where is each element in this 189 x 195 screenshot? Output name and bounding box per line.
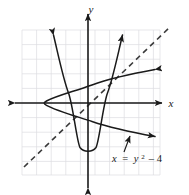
equation-exponent: 2 xyxy=(141,153,145,161)
y-axis-label: y xyxy=(88,3,94,15)
x-axis-label: x xyxy=(168,97,174,109)
figure-background xyxy=(0,0,189,195)
graph-canvas: x y x = y 2 – 4 xyxy=(0,0,189,195)
graph-figure: x y x = y 2 – 4 xyxy=(0,0,189,195)
equation-rhs-variable: y xyxy=(133,153,139,164)
equation-lhs: x xyxy=(111,153,117,164)
equation-equals: = xyxy=(122,153,128,164)
equation-tail: – 4 xyxy=(148,153,163,164)
